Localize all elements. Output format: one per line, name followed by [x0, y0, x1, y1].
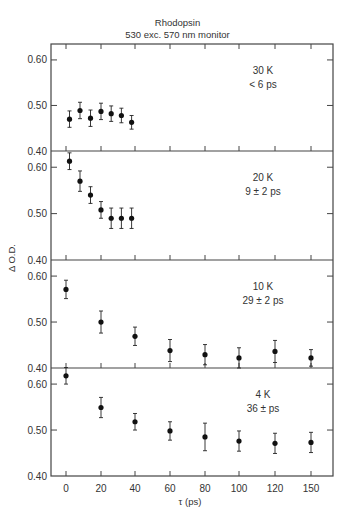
- y-tick-label: 0.50: [28, 317, 48, 328]
- panel-temperature-label: 20 K: [253, 172, 274, 183]
- y-tick-label: 0.60: [28, 54, 48, 65]
- data-point: [272, 349, 277, 354]
- y-tick-label: 0.60: [28, 379, 48, 390]
- data-point: [88, 192, 93, 197]
- y-tick-label: 0.40: [28, 363, 48, 374]
- data-point: [67, 159, 72, 164]
- data-point: [119, 113, 124, 118]
- y-tick-label: 0.50: [28, 425, 48, 436]
- data-point: [202, 434, 207, 439]
- data-point: [129, 216, 134, 221]
- data-point: [236, 355, 241, 360]
- data-point: [98, 207, 103, 212]
- x-tick-label: 80: [199, 483, 211, 494]
- data-point: [167, 348, 172, 353]
- y-axis-label: Δ O.D.: [6, 244, 17, 272]
- x-tick-label: 150: [303, 483, 320, 494]
- x-tick-label: 60: [164, 483, 176, 494]
- panel-lifetime-label: 36 ± ps: [247, 403, 280, 414]
- x-tick-label: 120: [267, 483, 284, 494]
- data-point: [67, 117, 72, 122]
- panel-temperature-label: 4 K: [255, 389, 270, 400]
- panel-temperature-label: 10 K: [253, 281, 274, 292]
- data-point: [167, 428, 172, 433]
- data-point: [202, 352, 207, 357]
- data-point: [63, 287, 68, 292]
- y-tick-label: 0.60: [28, 162, 48, 173]
- panel-temperature-label: 30 K: [253, 65, 274, 76]
- y-tick-label: 0.50: [28, 100, 48, 111]
- data-point: [308, 440, 313, 445]
- x-axis-label: τ (ps): [179, 496, 202, 507]
- x-tick-label: 100: [231, 483, 248, 494]
- y-tick-label: 0.50: [28, 208, 48, 219]
- data-point: [129, 120, 134, 125]
- data-point: [109, 111, 114, 116]
- data-point: [272, 441, 277, 446]
- data-point: [98, 405, 103, 410]
- data-point: [77, 108, 82, 113]
- chart-plot: 0.400.500.6030 K< 6 ps0.400.500.6020 K9 …: [0, 0, 355, 516]
- data-point: [236, 438, 241, 443]
- panel-lifetime-label: 9 ± 2 ps: [245, 186, 281, 197]
- data-point: [109, 216, 114, 221]
- x-tick-label: 40: [129, 483, 141, 494]
- x-tick-label: 20: [95, 483, 107, 494]
- x-tick-label: 0: [63, 483, 69, 494]
- y-tick-label: 0.40: [28, 146, 48, 157]
- data-point: [77, 179, 82, 184]
- data-point: [88, 116, 93, 121]
- data-point: [98, 319, 103, 324]
- y-tick-label: 0.40: [28, 471, 48, 482]
- data-point: [308, 355, 313, 360]
- data-point: [63, 373, 68, 378]
- panel-lifetime-label: < 6 ps: [249, 79, 277, 90]
- data-point: [98, 109, 103, 114]
- data-point: [132, 334, 137, 339]
- data-point: [132, 419, 137, 424]
- data-point: [119, 216, 124, 221]
- y-tick-label: 0.60: [28, 271, 48, 282]
- y-tick-label: 0.40: [28, 255, 48, 266]
- panel-lifetime-label: 29 ± 2 ps: [242, 295, 283, 306]
